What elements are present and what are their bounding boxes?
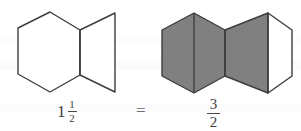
equals-sign: = [136, 102, 146, 119]
mixed-number-label: 1 1 2 [57, 99, 77, 124]
half-hexagon-outline [80, 13, 115, 92]
right-shaded-model [162, 13, 292, 93]
mixed-number-denominator: 2 [68, 113, 76, 124]
hexagon-models-diagram [0, 0, 301, 131]
mixed-number-whole-part: 1 [57, 103, 66, 120]
improper-fraction-denominator: 2 [208, 115, 220, 130]
unshaded-half-hexagon [268, 13, 292, 93]
improper-fraction-label: 3 2 [207, 97, 220, 130]
mixed-number-numerator: 1 [68, 99, 76, 110]
improper-fraction-numerator: 3 [208, 97, 220, 112]
left-outline-model [18, 12, 115, 92]
whole-hexagon-outline [18, 12, 80, 92]
shaded-half-wedge [225, 13, 268, 93]
figure-canvas: 1 1 2 = 3 2 [0, 0, 301, 131]
mixed-number-fraction: 1 2 [68, 99, 77, 124]
